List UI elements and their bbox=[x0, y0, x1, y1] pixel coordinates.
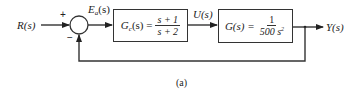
plant-block: G(s) = 1 500 s2 bbox=[218, 9, 293, 43]
plant-lhs: G(s) = bbox=[225, 20, 255, 32]
plus-sign: + bbox=[60, 10, 66, 20]
controller-fraction: s + 1 s + 2 bbox=[155, 14, 180, 38]
output-label: Y(s) bbox=[326, 22, 344, 33]
controller-numerator: s + 1 bbox=[155, 14, 180, 27]
plant-numerator: 1 bbox=[267, 14, 276, 27]
plant-fraction: 1 500 s2 bbox=[258, 14, 286, 38]
controller-denominator: s + 2 bbox=[155, 26, 180, 38]
error-signal-label: Ea(s) bbox=[88, 4, 110, 17]
input-label: R(s) bbox=[17, 20, 35, 31]
minus-sign: − bbox=[67, 33, 73, 43]
figure-caption: (a) bbox=[176, 78, 187, 88]
controller-block: Gc(s) = s + 1 s + 2 bbox=[113, 9, 188, 42]
plant-denominator: 500 s2 bbox=[258, 26, 286, 38]
controller-lhs: Gc(s) = bbox=[121, 19, 153, 33]
control-signal-label: U(s) bbox=[193, 9, 213, 20]
